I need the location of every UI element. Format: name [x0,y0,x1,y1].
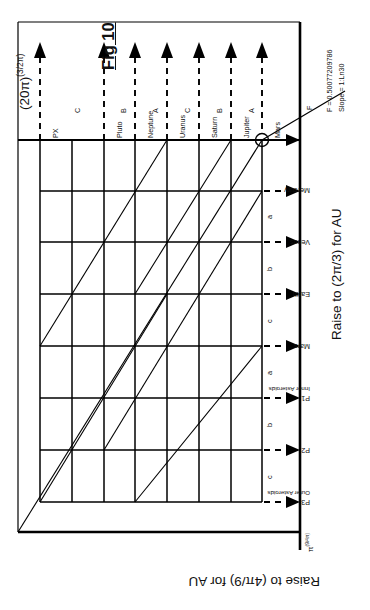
x-tick-uranus: Uranus [179,115,186,138]
origin-label: F [306,106,313,110]
y-tick-p1: P1 [301,395,310,402]
y-axis-title: Raise to (4π/9) for AU [188,575,320,589]
y-tick-mars: Mars [294,343,310,350]
x-tick-saturn: Saturn [211,117,218,138]
inner-asteroids-label: Inner Asteroids [269,386,310,392]
figure-caption: Fig 10 [100,22,117,70]
figure-drawing [0,0,370,610]
y-tick-earth: Earth [293,291,310,298]
y-max-base: π [306,546,315,552]
y-tick-mercury: Mercury [284,187,310,194]
y-band-a2: a [266,371,273,375]
x-tick-neptune: Neptune [147,111,154,138]
x-tick-mars: Mars [274,122,281,138]
figure-page: Mars Jupiter Saturn Uranus Neptune Pluto… [0,0,370,610]
x-band-a1: A [248,108,255,113]
x-tick-jupiter: Jupiter [243,116,250,138]
x-band-c2: C [74,108,81,113]
y-band-c1: c [266,319,273,323]
x-max-label: (20π)(3/2π) [16,54,31,110]
y-band-c2: c [266,475,273,479]
x-band-b2: B [120,108,127,113]
note-f-value: F = 0.50077209786 [326,49,333,112]
x-tick-px: PX [52,128,59,138]
y-max-exponent: (9/4π) [305,533,310,547]
y-band-b2: b [266,423,273,427]
y-max-label: π(9/4π) [306,533,315,552]
x-band-a2: A [152,108,159,113]
outer-asteroids-label: Outer Asteroids [267,490,310,496]
diagonal-lines [18,140,262,532]
x-max-base: (20π) [17,77,32,110]
y-tick-venus: Venus [290,239,310,246]
y-tick-p2: P2 [301,447,310,454]
figure-rotated-canvas: Mars Jupiter Saturn Uranus Neptune Pluto… [0,0,370,610]
y-tick-p3: P3 [301,499,310,506]
x-max-exponent: (3/2π) [15,54,25,77]
x-band-c1: C [184,108,191,113]
y-band-b1: b [266,267,273,271]
y-band-a1: a [266,215,273,219]
x-tick-pluto: Pluto [116,122,123,138]
x-band-b1: B [216,108,223,113]
axes [18,22,300,550]
note-slope: Slope = 1:Ln30 [338,63,345,112]
x-axis-title: Raise to (2π/3) for AU [330,208,344,340]
